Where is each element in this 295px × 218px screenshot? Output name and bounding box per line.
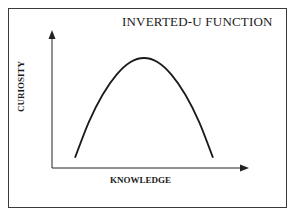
x-axis-label: KNOWLEDGE [110, 175, 171, 185]
chart-svg [0, 0, 295, 218]
y-axis-label: CURIOSITY [16, 61, 26, 112]
y-axis-arrow-icon [49, 30, 56, 39]
inverted-u-curve [75, 58, 213, 158]
x-axis-arrow-icon [240, 165, 249, 172]
